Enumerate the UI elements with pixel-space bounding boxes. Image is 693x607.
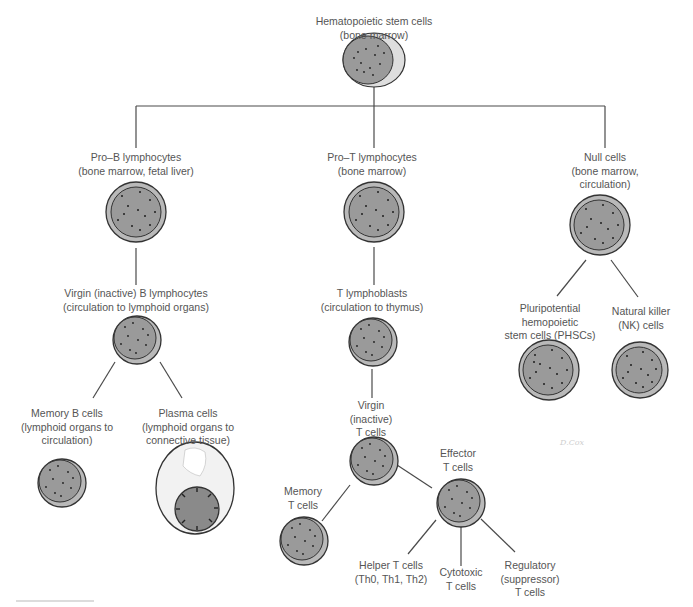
- cell-pro-b: [106, 182, 166, 242]
- label-line: (bone marrow,: [571, 165, 638, 179]
- cell-null: [570, 195, 630, 255]
- label-helper-t-cells: Helper T cells (Th0, Th1, Th2): [355, 559, 428, 586]
- label-line: Memory: [284, 485, 322, 499]
- label-effector-t-cells: Effector T cells: [440, 447, 476, 474]
- label-line: T cells: [350, 426, 393, 440]
- label-line: (bone marrow): [327, 165, 417, 179]
- label-virgin-t-cells: Virgin (inactive) T cells: [350, 399, 393, 440]
- label-line: Regulatory: [501, 559, 560, 573]
- label-line: stem cells (PHSCs): [504, 329, 595, 343]
- label-line: connective tissue): [142, 434, 234, 448]
- label-line: Hematopoietic stem cells: [316, 15, 433, 29]
- label-line: (NK) cells: [612, 319, 670, 333]
- label-line: (bone marrow): [316, 29, 433, 43]
- label-natural-killer-cells: Natural killer (NK) cells: [612, 305, 670, 332]
- cell-phsc: [519, 340, 579, 400]
- label-line: (lymphoid organs to: [21, 421, 113, 435]
- label-line: Virgin (inactive) B lymphocytes: [63, 287, 209, 301]
- label-line: circulation): [571, 178, 638, 192]
- label-t-lymphoblasts: T lymphoblasts (circulation to thymus): [321, 287, 424, 314]
- label-line: (Th0, Th1, Th2): [355, 573, 428, 587]
- label-pro-t-lymphocytes: Pro–T lymphocytes (bone marrow): [327, 151, 417, 178]
- label-line: Natural killer: [612, 305, 670, 319]
- footer-rule: [16, 600, 94, 602]
- label-line: T cells: [284, 499, 322, 513]
- edge-effector-t-helper-t: [408, 520, 436, 554]
- cell-pro-t: [344, 182, 404, 242]
- label-line: Pluripotential: [504, 302, 595, 316]
- label-line: Effector: [440, 447, 476, 461]
- label-line: Memory B cells: [21, 407, 113, 421]
- edge-virgin-b-memory-b: [93, 362, 115, 398]
- label-line: Plasma cells: [142, 407, 234, 421]
- label-line: (lymphoid organs to: [142, 421, 234, 435]
- label-cytotoxic-t-cells: Cytotoxic T cells: [439, 566, 482, 593]
- edge-null-phsc: [557, 260, 586, 296]
- label-line: T cells: [439, 580, 482, 594]
- label-line: (inactive): [350, 413, 393, 427]
- label-pro-b-lymphocytes: Pro–B lymphocytes (bone marrow, fetal li…: [78, 151, 194, 178]
- label-line: T cells: [440, 461, 476, 475]
- label-line: Helper T cells: [355, 559, 428, 573]
- edge-virgin-t-effector-t: [397, 465, 432, 488]
- label-line: Pro–T lymphocytes: [327, 151, 417, 165]
- cell-effector-t: [437, 479, 485, 527]
- cell-memory-t: [280, 517, 328, 565]
- label-null-cells: Null cells (bone marrow, circulation): [571, 151, 638, 192]
- label-memory-t-cells: Memory T cells: [284, 485, 322, 512]
- label-line: T lymphoblasts: [321, 287, 424, 301]
- cell-nk: [612, 342, 668, 398]
- label-line: Cytotoxic: [439, 566, 482, 580]
- edge-virgin-t-memory-t: [322, 485, 350, 521]
- label-line: T cells: [501, 586, 560, 600]
- label-virgin-b-lymphocytes: Virgin (inactive) B lymphocytes (circula…: [63, 287, 209, 314]
- label-line: (circulation to thymus): [321, 301, 424, 315]
- edge-virgin-b-plasma: [160, 362, 182, 398]
- label-regulatory-t-cells: Regulatory (suppressor) T cells: [501, 559, 560, 600]
- label-line: hemopoietic: [504, 316, 595, 330]
- label-hematopoietic-stem-cells: Hematopoietic stem cells (bone marrow): [316, 15, 433, 42]
- label-line: Virgin: [350, 399, 393, 413]
- label-line: Pro–B lymphocytes: [78, 151, 194, 165]
- label-phsc: Pluripotential hemopoietic stem cells (P…: [504, 302, 595, 343]
- cell-virgin-b: [113, 316, 161, 364]
- cell-t-lymphoblast: [349, 318, 397, 366]
- cell-memory-b: [38, 459, 86, 507]
- artist-signature: D.Cox: [560, 438, 584, 447]
- label-line: Null cells: [571, 151, 638, 165]
- cell-plasma: [156, 442, 234, 534]
- edge-effector-t-regulatory-t: [481, 519, 515, 552]
- label-memory-b-cells: Memory B cells (lymphoid organs to circu…: [21, 407, 113, 448]
- label-line: (circulation to lymphoid organs): [63, 301, 209, 315]
- label-line: (suppressor): [501, 573, 560, 587]
- edge-null-nk: [611, 260, 638, 297]
- cell-virgin-t: [350, 437, 398, 485]
- label-line: circulation): [21, 434, 113, 448]
- label-plasma-cells: Plasma cells (lymphoid organs to connect…: [142, 407, 234, 448]
- label-line: (bone marrow, fetal liver): [78, 165, 194, 179]
